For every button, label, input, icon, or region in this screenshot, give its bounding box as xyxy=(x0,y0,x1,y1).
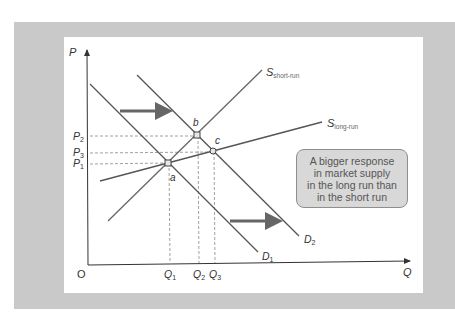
point-a-marker xyxy=(165,160,171,166)
point-b-label: b xyxy=(193,117,199,128)
demand-curve-d1 xyxy=(90,84,258,252)
point-c-marker xyxy=(210,148,216,154)
x-axis-label: Q xyxy=(403,266,412,278)
origin-label: O xyxy=(77,268,86,280)
s-long-run-label: Slong-run xyxy=(327,117,359,131)
annotation-callout: A bigger response in market supply in th… xyxy=(296,149,408,208)
s-short-run-label: Sshort-run xyxy=(266,66,300,79)
y-axis-label: P xyxy=(69,46,77,58)
point-a-label: a xyxy=(170,172,176,183)
y-axis xyxy=(87,50,88,265)
x-axis xyxy=(88,261,410,265)
callout-line-2: in market supply xyxy=(307,167,397,179)
point-b-marker xyxy=(194,132,200,138)
quantity-label-q2: Q2 xyxy=(193,268,205,281)
callout-line-3: in the long run than xyxy=(307,179,397,191)
d1-label: D1 xyxy=(262,250,274,263)
quantity-label-q1: Q1 xyxy=(164,268,176,281)
point-c-label: c xyxy=(215,135,220,146)
price-label-p2: P2 xyxy=(73,130,84,143)
supply-curve-short-run xyxy=(108,70,262,221)
d2-label: D2 xyxy=(304,233,316,246)
quantity-label-q3: Q3 xyxy=(209,268,221,281)
callout-line-1: A bigger response xyxy=(307,155,397,167)
callout-line-4: in the short run xyxy=(307,191,397,203)
